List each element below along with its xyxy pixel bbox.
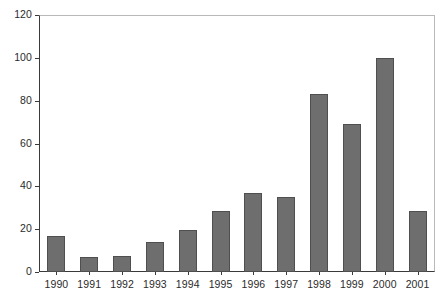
bar — [409, 211, 427, 272]
x-axis-tick: 1996 — [237, 274, 270, 296]
x-axis-tick-label: 1992 — [106, 278, 139, 290]
x-axis-tick-label: 1998 — [303, 278, 336, 290]
x-axis-tick: 1991 — [73, 274, 106, 296]
bar — [113, 256, 131, 272]
bar — [212, 211, 230, 272]
x-axis-tick-label: 1995 — [204, 278, 237, 290]
x-axis-tick-label: 1993 — [138, 278, 171, 290]
y-axis-tick-label: 80 — [20, 94, 32, 106]
y-axis-tick-mark — [35, 58, 39, 59]
x-axis-tick: 2000 — [368, 274, 401, 296]
y-axis: 020406080100120 — [0, 15, 39, 273]
x-axis-tick-mark — [385, 272, 386, 275]
y-axis-tick-mark — [35, 101, 39, 102]
x-axis-tick-mark — [56, 272, 57, 275]
x-axis-tick-mark — [122, 272, 123, 275]
bar — [47, 236, 65, 272]
x-axis-tick: 1990 — [40, 274, 73, 296]
y-axis-tick-label: 100 — [14, 51, 32, 63]
x-axis-tick-label: 1994 — [171, 278, 204, 290]
x-axis-tick-label: 1997 — [270, 278, 303, 290]
y-axis-tick-mark — [35, 229, 39, 230]
x-axis-tick-label: 1996 — [237, 278, 270, 290]
x-axis-tick-mark — [155, 272, 156, 275]
bar-slot — [237, 15, 270, 272]
y-axis-tick-label: 0 — [26, 265, 32, 277]
bar — [244, 193, 262, 272]
x-axis-tick-mark — [188, 272, 189, 275]
bar-slot — [368, 15, 401, 272]
y-axis-tick-label: 60 — [20, 137, 32, 149]
x-axis-tick: 1999 — [335, 274, 368, 296]
x-axis-tick: 1998 — [303, 274, 336, 296]
bar — [376, 58, 394, 272]
y-axis-tick-label: 40 — [20, 179, 32, 191]
x-axis-tick-label: 2001 — [401, 278, 434, 290]
bar — [310, 94, 328, 272]
x-axis-tick: 1997 — [270, 274, 303, 296]
x-axis-tick-label: 1999 — [335, 278, 368, 290]
x-axis-tick-label: 2000 — [368, 278, 401, 290]
x-axis-tick: 1994 — [171, 274, 204, 296]
bar-slot — [138, 15, 171, 272]
y-axis-tick-label: 120 — [14, 8, 32, 20]
bar — [343, 124, 361, 272]
y-axis-tick-label: 20 — [20, 222, 32, 234]
bar-slot — [40, 15, 73, 272]
y-axis-tick-mark — [35, 144, 39, 145]
bar-chart: 020406080100120 199019911992199319941995… — [0, 0, 446, 301]
x-axis-tick: 2001 — [401, 274, 434, 296]
x-axis-tick: 1995 — [204, 274, 237, 296]
bar-slot — [171, 15, 204, 272]
x-axis-tick-mark — [253, 272, 254, 275]
x-axis-tick-mark — [286, 272, 287, 275]
x-axis-tick-mark — [352, 272, 353, 275]
y-axis-tick-mark — [35, 15, 39, 16]
x-axis-tick: 1992 — [106, 274, 139, 296]
x-axis-tick-label: 1990 — [40, 278, 73, 290]
bar-slot — [401, 15, 434, 272]
y-axis-tick-mark — [35, 272, 39, 273]
bar — [80, 257, 98, 272]
x-axis-tick: 1993 — [138, 274, 171, 296]
bar-slot — [73, 15, 106, 272]
x-axis: 1990199119921993199419951996199719981999… — [40, 274, 434, 296]
bar — [277, 197, 295, 272]
x-axis-tick-mark — [418, 272, 419, 275]
bar-slot — [335, 15, 368, 272]
bar-slot — [204, 15, 237, 272]
x-axis-tick-label: 1991 — [73, 278, 106, 290]
x-axis-tick-mark — [221, 272, 222, 275]
bar-slot — [270, 15, 303, 272]
x-axis-tick-mark — [319, 272, 320, 275]
bar-slot — [106, 15, 139, 272]
y-axis-tick-mark — [35, 186, 39, 187]
x-axis-tick-mark — [89, 272, 90, 275]
bar — [146, 242, 164, 272]
bar — [179, 230, 197, 272]
bars-area — [40, 15, 434, 272]
bar-slot — [303, 15, 336, 272]
